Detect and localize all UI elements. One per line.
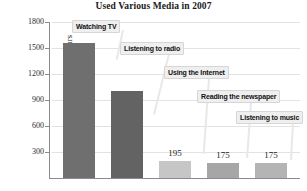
annotation-listening-to-radio: Listening to radio bbox=[120, 42, 184, 55]
chart-title: Used Various Media in 2007 bbox=[0, 1, 307, 11]
tick-900 bbox=[45, 100, 50, 101]
bar-value-reading-the-newspaper: 175 bbox=[207, 150, 239, 160]
annotation-watching-tv: Watching TV bbox=[72, 20, 120, 33]
tick-1500 bbox=[45, 48, 50, 49]
bar-listening-to-music bbox=[255, 163, 287, 178]
tick-1800 bbox=[45, 22, 50, 23]
leader-line-5 bbox=[290, 122, 293, 160]
chart-figure: Used Various Media in 2007 1800 1500 120… bbox=[0, 0, 307, 191]
tick-600 bbox=[45, 126, 50, 127]
y-tick-label-1800: 1800 bbox=[28, 17, 44, 26]
x-axis-line bbox=[49, 178, 300, 179]
bar-using-the-internet bbox=[159, 161, 191, 178]
y-tick-label-1500: 1500 bbox=[28, 43, 44, 52]
y-tick-label-300: 300 bbox=[32, 147, 44, 156]
annotation-reading-the-newspaper: Reading the newspaper bbox=[197, 90, 280, 103]
tick-1200 bbox=[45, 74, 50, 75]
y-tick-label-1200: 1200 bbox=[28, 69, 44, 78]
leader-line-2 bbox=[153, 54, 169, 115]
y-tick-label-900: 900 bbox=[32, 95, 44, 104]
annotation-using-the-internet: Using the Internet bbox=[164, 66, 229, 79]
y-tick-label-600: 600 bbox=[32, 121, 44, 130]
bar-value-using-the-internet: 195 bbox=[159, 148, 191, 158]
plot-area: 1800 1500 1200 900 600 300 Number of Hou… bbox=[52, 22, 300, 179]
tick-300 bbox=[45, 152, 50, 153]
bar-listening-to-radio bbox=[111, 91, 143, 178]
bar-value-listening-to-music: 175 bbox=[255, 150, 287, 160]
bar-reading-the-newspaper bbox=[207, 163, 239, 178]
bar-watching-tv bbox=[63, 43, 95, 178]
annotation-listening-to-music: Listening to music bbox=[236, 111, 303, 124]
